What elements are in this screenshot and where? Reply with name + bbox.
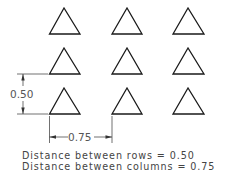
triangle-r3-c3 xyxy=(173,88,204,114)
arrow-right-icon xyxy=(106,135,113,138)
row-distance-dimension: 0.50 xyxy=(10,74,48,114)
note-row-distance: Distance between rows = 0.50 xyxy=(22,150,195,161)
arrow-left-icon xyxy=(50,135,57,138)
arrow-down-icon xyxy=(21,108,24,115)
triangle-r1-c2 xyxy=(112,8,142,34)
triangle-r3-c1 xyxy=(50,88,81,114)
note-column-distance: Distance between columns = 0.75 xyxy=(22,161,215,172)
column-dimension-label: 0.75 xyxy=(68,131,91,143)
arrow-up-icon xyxy=(21,74,24,81)
triangle-r2-c1 xyxy=(50,48,81,74)
triangle-r1-c3 xyxy=(173,8,204,34)
triangle-r2-c3 xyxy=(173,48,204,74)
triangle-grid xyxy=(50,8,205,114)
triangle-r1-c1 xyxy=(50,8,81,34)
column-distance-dimension: 0.75 xyxy=(50,116,113,143)
triangle-r2-c2 xyxy=(112,48,142,74)
row-dimension-label: 0.50 xyxy=(10,88,33,100)
triangle-r3-c2 xyxy=(112,88,142,114)
